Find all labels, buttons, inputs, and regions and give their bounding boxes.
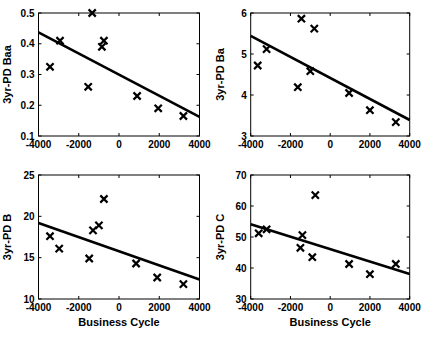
data-point-marker: [86, 255, 93, 262]
y-tick-label: 3: [241, 131, 247, 142]
subplot-3yr-pd-c: -4000-200002000400030405060703yr-PD CBus…: [213, 170, 426, 339]
data-point-marker: [255, 230, 262, 237]
y-axis-label: 3yr-PD Baa: [1, 44, 13, 104]
x-tick-label: 2000: [359, 302, 382, 313]
x-tick-label: 4000: [399, 139, 422, 150]
y-tick-label: 0.2: [21, 100, 35, 111]
y-tick-label: 40: [236, 263, 248, 274]
data-point-marker: [134, 92, 141, 99]
data-point-marker: [263, 46, 270, 53]
x-tick-label: 2000: [148, 302, 171, 313]
y-tick-label: 15: [23, 252, 35, 263]
y-tick-label: 70: [236, 170, 248, 181]
plot-canvas-pd-c: -4000-200002000400030405060703yr-PD CBus…: [213, 170, 426, 339]
axes-box: [251, 175, 410, 299]
x-tick-label: 0: [327, 302, 333, 313]
trend-line: [39, 32, 200, 117]
x-tick-label: -2000: [278, 302, 304, 313]
x-tick-label: 2000: [148, 139, 171, 150]
data-point-marker: [154, 274, 161, 281]
x-tick-label: 4000: [188, 139, 211, 150]
y-tick-label: 4: [241, 90, 247, 101]
y-axis-label: 3yr-PD Ba: [214, 47, 226, 100]
data-point-marker: [46, 233, 53, 240]
axes-box: [39, 175, 200, 299]
x-tick-label: 2000: [359, 139, 382, 150]
data-point-marker: [180, 281, 187, 288]
data-point-marker: [155, 105, 162, 112]
data-point-marker: [312, 192, 319, 199]
data-point-marker: [346, 260, 353, 267]
subplot-3yr-pd-b: -4000-2000020004000101520253yr-PD BBusin…: [0, 170, 213, 339]
x-axis-label: Business Cycle: [78, 316, 159, 328]
plot-canvas-pd-b: -4000-2000020004000101520253yr-PD BBusin…: [0, 170, 213, 339]
data-point-marker: [392, 260, 399, 267]
x-tick-label: -2000: [66, 139, 92, 150]
data-point-marker: [298, 15, 305, 22]
subplot-3yr-pd-ba: -4000-200002000400034563yr-PD Ba: [213, 0, 426, 170]
data-point-marker: [366, 271, 373, 278]
data-point-marker: [56, 245, 63, 252]
data-point-marker: [98, 43, 105, 50]
y-tick-label: 0.4: [21, 38, 35, 49]
y-tick-label: 5: [241, 49, 247, 60]
trend-line: [251, 224, 410, 274]
x-tick-label: 0: [116, 139, 122, 150]
y-tick-label: 60: [236, 201, 248, 212]
scatter-grid-figure: -4000-20000200040000.10.20.30.40.53yr-PD…: [0, 0, 426, 339]
x-tick-label: -2000: [278, 139, 304, 150]
data-point-marker: [299, 232, 306, 239]
trend-line: [251, 36, 410, 120]
y-tick-label: 20: [23, 211, 35, 222]
y-axis-label: 3yr-PD C: [214, 214, 226, 261]
y-tick-label: 30: [236, 294, 248, 305]
plot-canvas-pd-baa: -4000-20000200040000.10.20.30.40.53yr-PD…: [0, 0, 213, 170]
axes-box: [251, 13, 410, 136]
x-tick-label: -2000: [66, 302, 92, 313]
y-tick-label: 10: [23, 294, 35, 305]
data-point-marker: [297, 244, 304, 251]
subplot-3yr-pd-baa: -4000-20000200040000.10.20.30.40.53yr-PD…: [0, 0, 213, 170]
x-tick-label: 0: [327, 139, 333, 150]
x-tick-label: 4000: [188, 302, 211, 313]
y-tick-label: 0.1: [21, 131, 35, 142]
data-point-marker: [100, 37, 107, 44]
y-tick-label: 0.3: [21, 69, 35, 80]
data-point-marker: [95, 222, 102, 229]
y-axis-label: 3yr-PD B: [1, 214, 13, 261]
data-point-marker: [311, 25, 318, 32]
data-point-marker: [309, 254, 316, 261]
y-tick-label: 50: [236, 232, 248, 243]
y-tick-label: 0.5: [21, 8, 35, 19]
y-tick-label: 6: [241, 8, 247, 19]
data-point-marker: [392, 119, 399, 126]
data-point-marker: [46, 63, 53, 70]
data-point-marker: [85, 83, 92, 90]
y-tick-label: 25: [23, 170, 35, 181]
data-point-marker: [133, 260, 140, 267]
data-point-marker: [366, 107, 373, 114]
data-point-marker: [254, 62, 261, 69]
data-point-marker: [180, 112, 187, 119]
plot-canvas-pd-ba: -4000-200002000400034563yr-PD Ba: [213, 0, 426, 170]
data-point-marker: [294, 84, 301, 91]
x-tick-label: 0: [116, 302, 122, 313]
data-point-marker: [346, 89, 353, 96]
data-point-marker: [100, 195, 107, 202]
x-axis-label: Business Cycle: [290, 316, 371, 328]
x-tick-label: 4000: [399, 302, 422, 313]
